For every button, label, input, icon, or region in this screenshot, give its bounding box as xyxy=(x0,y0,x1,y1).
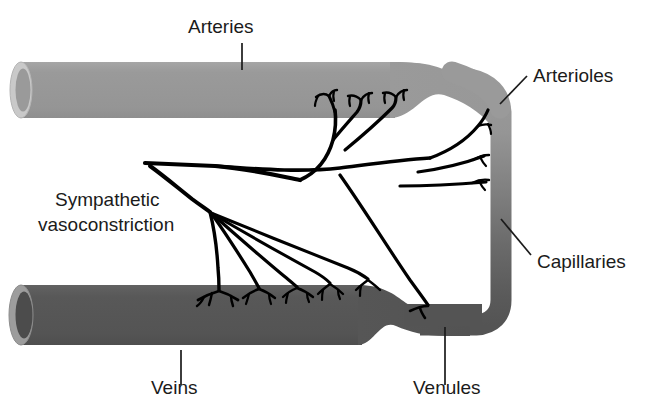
label-venules: Venules xyxy=(413,377,481,398)
nerve-terminal-capillary-1 xyxy=(478,124,491,134)
artery-vessel xyxy=(20,62,497,127)
vascular-diagram: Arteries Arterioles Capillaries Venules … xyxy=(0,0,646,413)
label-capillaries: Capillaries xyxy=(537,251,626,272)
nerve-capillary-fiber-1 xyxy=(430,110,488,158)
sympathetic-nerve-fibers xyxy=(145,90,491,318)
label-arteries: Arteries xyxy=(188,16,253,37)
vein-vessel xyxy=(20,285,482,345)
label-sympathetic-line2: vasoconstriction xyxy=(38,214,174,235)
artery-body xyxy=(20,62,395,118)
vein-lumen-opening xyxy=(9,285,33,345)
label-arterioles: Arterioles xyxy=(533,65,613,86)
artery-lumen-opening xyxy=(10,62,32,118)
label-veins: Veins xyxy=(151,377,197,398)
label-sympathetic-line1: Sympathetic xyxy=(55,189,160,210)
nerve-venous-fiber-4 xyxy=(211,213,330,283)
artery-lumen-inner xyxy=(16,69,31,112)
vein-lumen-inner xyxy=(16,292,33,339)
diagram-canvas: Arteries Arterioles Capillaries Venules … xyxy=(0,0,646,413)
